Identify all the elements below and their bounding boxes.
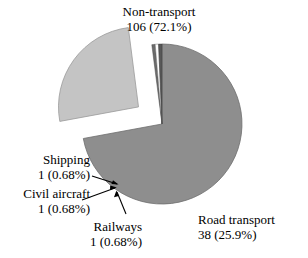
pie-label-railways: Railways 1 (0.68%): [58, 219, 142, 249]
pie-label-non-transport-name: Non-transport: [96, 4, 222, 19]
pie-label-road-transport-name: Road transport: [198, 212, 306, 227]
pie-label-shipping-name: Shipping: [6, 152, 90, 167]
pie-label-civil-aircraft-value: 1 (0.68%): [0, 201, 90, 216]
pie-label-railways-name: Railways: [58, 219, 142, 234]
pie-label-shipping-value: 1 (0.68%): [6, 167, 90, 182]
pie-slice-road-transport[interactable]: [58, 28, 138, 122]
pie-label-civil-aircraft: Civil aircraft 1 (0.68%): [0, 186, 90, 216]
pie-label-shipping: Shipping 1 (0.68%): [6, 152, 90, 182]
pie-label-road-transport-value: 38 (25.9%): [198, 227, 306, 242]
pie-label-civil-aircraft-name: Civil aircraft: [0, 186, 90, 201]
pie-label-road-transport: Road transport 38 (25.9%): [198, 212, 306, 242]
pie-label-railways-value: 1 (0.68%): [58, 234, 142, 249]
pie-label-non-transport-value: 106 (72.1%): [96, 19, 222, 34]
pie-chart-figure: Non-transport 106 (72.1%) Road transport…: [0, 0, 308, 258]
pie-slice-road-transport-group: [58, 28, 138, 122]
pie-label-non-transport: Non-transport 106 (72.1%): [96, 4, 222, 34]
